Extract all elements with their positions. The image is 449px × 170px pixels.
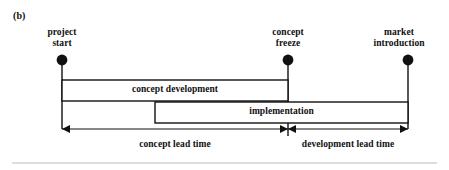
span-label-concept-lead-time: concept lead time <box>62 139 288 150</box>
milestone-dot-market-introduction <box>403 55 414 66</box>
milestone-dot-concept-freeze <box>283 55 294 66</box>
milestone-label-concept-freeze: concept freeze <box>232 27 344 48</box>
milestone-dot-project-start <box>57 55 68 66</box>
figure-container: (b) project start concept freeze market … <box>0 0 449 170</box>
phase-label-concept-development: concept development <box>62 84 288 95</box>
milestone-label-market-introduction: market introduction <box>350 27 448 48</box>
phase-label-implementation: implementation <box>155 106 408 117</box>
milestone-label-project-start: project start <box>6 27 118 48</box>
figure-enumeration-label: (b) <box>13 10 26 21</box>
span-label-development-lead-time: development lead time <box>288 139 408 150</box>
